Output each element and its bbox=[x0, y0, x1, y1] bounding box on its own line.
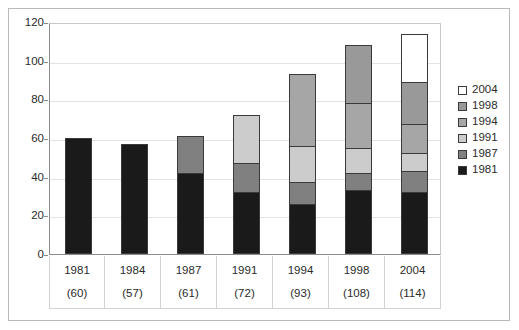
y-tick-mark bbox=[44, 23, 48, 24]
bar-1998[interactable] bbox=[345, 45, 372, 254]
y-tick-label: 120 bbox=[4, 17, 44, 29]
y-tick-label: 0 bbox=[4, 249, 44, 261]
legend-item-1994[interactable]: 1994 bbox=[458, 114, 510, 130]
x-total-label: (61) bbox=[161, 287, 216, 299]
bar-segment-1981 bbox=[65, 138, 92, 254]
bar-segment-1991 bbox=[289, 146, 316, 183]
bar-segment-1994 bbox=[289, 74, 316, 146]
x-axis-cell-1994: 1994(93) bbox=[273, 256, 329, 308]
bar-1981[interactable] bbox=[65, 138, 92, 254]
legend-label: 2004 bbox=[472, 84, 498, 96]
legend-swatch-2004 bbox=[458, 86, 467, 95]
bar-1984[interactable] bbox=[121, 144, 148, 254]
legend-label: 1994 bbox=[472, 116, 498, 128]
bar-segment-1994 bbox=[345, 103, 372, 147]
x-total-label: (108) bbox=[329, 287, 384, 299]
y-tick-label: 80 bbox=[4, 95, 44, 107]
legend-item-1987[interactable]: 1987 bbox=[458, 146, 510, 162]
y-tick-mark bbox=[44, 62, 48, 63]
y-tick-mark bbox=[44, 139, 48, 140]
x-tick-label: 1984 bbox=[105, 264, 160, 276]
x-tick-label: 1981 bbox=[50, 264, 104, 276]
bar-segment-1981 bbox=[289, 204, 316, 254]
legend-label: 1987 bbox=[472, 148, 498, 160]
y-tick-label: 60 bbox=[4, 133, 44, 145]
y-tick-mark bbox=[44, 178, 48, 179]
x-total-label: (114) bbox=[385, 287, 440, 299]
x-total-label: (72) bbox=[217, 287, 272, 299]
bar-segment-1998 bbox=[401, 82, 428, 125]
x-total-label: (60) bbox=[50, 287, 104, 299]
legend-swatch-1998 bbox=[458, 102, 467, 111]
legend-item-1998[interactable]: 1998 bbox=[458, 98, 510, 114]
y-tick-label: 20 bbox=[4, 211, 44, 223]
bar-1987[interactable] bbox=[177, 136, 204, 254]
x-tick-label: 1987 bbox=[161, 264, 216, 276]
x-axis-cell-1998: 1998(108) bbox=[329, 256, 385, 308]
bar-segment-1991 bbox=[345, 148, 372, 173]
x-tick-label: 2004 bbox=[385, 264, 440, 276]
x-axis: 1981(60)1984(57)1987(61)1991(72)1994(93)… bbox=[49, 256, 441, 308]
legend-label: 1998 bbox=[472, 100, 498, 112]
y-tick-mark bbox=[44, 216, 48, 217]
bar-segment-1981 bbox=[177, 173, 204, 254]
legend-swatch-1991 bbox=[458, 134, 467, 143]
bar-segment-1981 bbox=[345, 190, 372, 254]
bar-segment-1987 bbox=[401, 171, 428, 192]
bar-segment-2004 bbox=[401, 34, 428, 82]
bar-segment-1987 bbox=[289, 182, 316, 203]
legend-label: 1981 bbox=[472, 164, 498, 176]
x-total-label: (57) bbox=[105, 287, 160, 299]
x-axis-cell-1981: 1981(60) bbox=[49, 256, 105, 308]
bar-segment-1994 bbox=[401, 124, 428, 153]
gridline bbox=[50, 101, 440, 102]
x-tick-label: 1994 bbox=[273, 264, 328, 276]
bar-segment-1987 bbox=[233, 163, 260, 192]
gridline bbox=[50, 63, 440, 64]
bar-1994[interactable] bbox=[289, 74, 316, 254]
y-tick-label: 40 bbox=[4, 172, 44, 184]
x-axis-cell-1987: 1987(61) bbox=[161, 256, 217, 308]
x-total-label: (93) bbox=[273, 287, 328, 299]
bar-segment-1998 bbox=[345, 45, 372, 103]
x-axis-cell-1984: 1984(57) bbox=[105, 256, 161, 308]
legend-swatch-1994 bbox=[458, 118, 467, 127]
chart-legend: 200419981994199119871981 bbox=[458, 82, 510, 178]
x-tick-label: 1991 bbox=[217, 264, 272, 276]
y-tick-label: 100 bbox=[4, 56, 44, 68]
bar-segment-1991 bbox=[233, 115, 260, 163]
legend-swatch-1987 bbox=[458, 150, 467, 159]
bar-segment-1981 bbox=[233, 192, 260, 254]
x-axis-cell-1991: 1991(72) bbox=[217, 256, 273, 308]
x-axis-cell-2004: 2004(114) bbox=[385, 256, 441, 308]
bar-segment-1987 bbox=[345, 173, 372, 190]
chart-figure: 020406080100120 1981(60)1984(57)1987(61)… bbox=[0, 0, 519, 330]
legend-item-1981[interactable]: 1981 bbox=[458, 162, 510, 178]
plot-area bbox=[49, 23, 441, 255]
x-axis-rule bbox=[49, 308, 441, 309]
legend-item-1991[interactable]: 1991 bbox=[458, 130, 510, 146]
x-tick-label: 1998 bbox=[329, 264, 384, 276]
y-tick-mark bbox=[44, 255, 48, 256]
bar-1991[interactable] bbox=[233, 115, 260, 254]
bar-2004[interactable] bbox=[401, 34, 428, 254]
y-axis: 020406080100120 bbox=[0, 23, 44, 255]
legend-item-2004[interactable]: 2004 bbox=[458, 82, 510, 98]
bar-segment-1991 bbox=[401, 153, 428, 170]
y-tick-mark bbox=[44, 100, 48, 101]
legend-label: 1991 bbox=[472, 132, 498, 144]
bar-segment-1981 bbox=[401, 192, 428, 254]
bar-segment-1987 bbox=[177, 136, 204, 173]
bar-segment-1981 bbox=[121, 144, 148, 254]
legend-swatch-1981 bbox=[458, 166, 467, 175]
